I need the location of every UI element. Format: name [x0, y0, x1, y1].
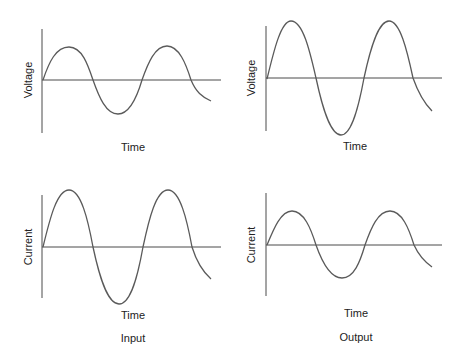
column-caption-input: Input [121, 333, 145, 344]
panel-input-current [42, 190, 221, 304]
y-axis-label: Voltage [23, 62, 34, 99]
panel-output-current [266, 193, 442, 296]
x-axis-label: Time [121, 142, 145, 153]
panel-input-voltage [42, 29, 221, 133]
panel-output-voltage [266, 21, 442, 135]
column-caption-output: Output [339, 332, 372, 343]
y-axis-label: Current [23, 229, 34, 266]
y-axis-label: Voltage [246, 60, 257, 97]
y-axis-label: Current [246, 227, 257, 264]
x-axis-label: Time [121, 310, 145, 321]
waveform-plots [0, 0, 463, 360]
x-axis-label: Time [343, 141, 367, 152]
transformer-waveform-figure: Voltage Time Voltage Time Current Time C… [0, 0, 463, 360]
x-axis-label: Time [344, 308, 368, 319]
